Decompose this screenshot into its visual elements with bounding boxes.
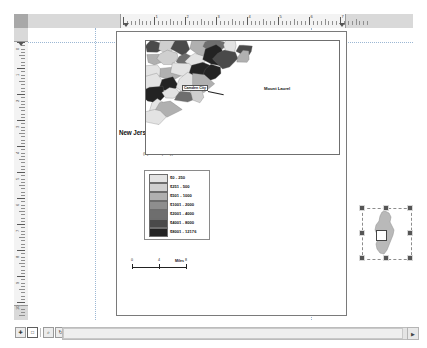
ruler-h-label: 1 (156, 15, 158, 19)
choropleth-map[interactable] (146, 41, 339, 154)
ruler-v-label: 5 (16, 178, 20, 180)
ruler-h-minor-tick (146, 21, 147, 25)
map-callout-camden-city[interactable]: Camden City (182, 85, 208, 91)
legend-label: $2001 - 4000 (170, 211, 194, 216)
legend-item[interactable]: $8001 - 12176 (149, 228, 207, 235)
ruler-v-minor-tick (21, 123, 25, 124)
ruler-v-minor-tick (21, 234, 25, 235)
horizontal-scrollbar[interactable] (62, 327, 409, 340)
ruler-h-minor-tick (274, 21, 275, 25)
ruler-h-label: 3 (218, 15, 220, 19)
ruler-v-minor-tick (19, 263, 25, 264)
ruler-v-label: 7 (16, 230, 20, 232)
selection-handle[interactable] (407, 205, 413, 211)
ruler-v-minor-tick (21, 58, 25, 59)
legend-item[interactable]: $1001 - 2000 (149, 201, 207, 208)
ruler-h-minor-tick (224, 21, 225, 25)
ruler-h-minor-tick (228, 21, 229, 25)
ruler-v-minor-tick (21, 101, 25, 102)
ruler-h-minor-tick (356, 19, 357, 25)
ruler-v-minor-tick (21, 156, 25, 157)
selection-handle[interactable] (383, 205, 389, 211)
ruler-v-minor-tick (21, 75, 25, 76)
scale-bar-tick-label: 0 (131, 258, 133, 262)
ruler-v-minor-tick (21, 162, 25, 163)
legend-item[interactable]: $251 - 500 (149, 183, 207, 190)
select-tool[interactable]: □ (27, 327, 38, 338)
ruler-h-minor-tick (321, 21, 322, 25)
ruler-v-minor-tick (21, 88, 25, 89)
ruler-h-minor-tick (201, 19, 202, 25)
vertical-ruler[interactable]: 012345678910 (14, 28, 29, 320)
ruler-h-minor-tick (255, 21, 256, 25)
horizontal-scrollbar-thumb[interactable] (63, 328, 403, 339)
horizontal-ruler[interactable]: 1234567 (28, 14, 413, 29)
scroll-right-button[interactable]: ▶ (407, 327, 419, 340)
ruler-v-minor-tick (21, 253, 25, 254)
scale-bar[interactable]: Miles 048 (129, 258, 201, 274)
ruler-h-minor-tick (282, 21, 283, 25)
ruler-v-minor-tick (21, 266, 25, 267)
map-label-mount-laurel[interactable]: Mount Laurel (264, 86, 290, 91)
scale-bar-unit: Miles (175, 259, 184, 263)
ruler-v-minor-tick (21, 143, 25, 144)
ruler-guide-marker-right[interactable] (339, 23, 345, 27)
ruler-v-minor-tick (21, 273, 25, 274)
ruler-v-minor-tick (21, 153, 25, 154)
ruler-h-minor-tick (313, 21, 314, 25)
ruler-v-minor-tick (21, 169, 25, 170)
ruler-h-minor-tick (162, 21, 163, 25)
ruler-v-minor-tick (21, 244, 25, 245)
selection-handle[interactable] (359, 255, 365, 261)
ruler-h-minor-tick (135, 21, 136, 25)
layout-canvas[interactable]: New Jersey Per Capita Tax , 2001 (by mun… (28, 28, 413, 320)
selection-handle[interactable] (407, 230, 413, 236)
legend-label: $251 - 500 (170, 184, 190, 189)
selection-handle[interactable] (383, 255, 389, 261)
ruler-v-major-tick (17, 120, 25, 121)
ruler-v-minor-tick (21, 179, 25, 180)
ruler-v-minor-tick (21, 114, 25, 115)
pan-tool[interactable]: ✚ (15, 327, 26, 338)
scale-bar-tick (186, 264, 187, 269)
map-data-frame[interactable]: Camden City Mount Laurel (145, 40, 340, 155)
inset-overview-graphic[interactable] (358, 204, 413, 262)
ruler-h-minor-tick (208, 21, 209, 25)
ruler-v-label: 9 (16, 282, 20, 284)
ruler-v-minor-tick (21, 292, 25, 293)
ruler-h-minor-tick (235, 21, 236, 25)
ruler-v-minor-tick (19, 237, 25, 238)
ruler-v-major-tick (17, 198, 25, 199)
ruler-v-label: 10 (16, 306, 20, 310)
legend-item[interactable]: $0 - 250 (149, 174, 207, 181)
selection-handle[interactable] (407, 255, 413, 261)
legend-swatch (149, 210, 168, 219)
ruler-v-minor-tick (21, 279, 25, 280)
legend-item[interactable]: $2001 - 4000 (149, 210, 207, 217)
ruler-v-minor-tick (21, 175, 25, 176)
legend-item[interactable]: $4001 - 8000 (149, 219, 207, 226)
selection-handle[interactable] (359, 205, 365, 211)
ruler-h-minor-tick (150, 21, 151, 25)
ruler-v-minor-tick (21, 78, 25, 79)
selection-handle[interactable] (359, 230, 365, 236)
ruler-v-minor-tick (21, 218, 25, 219)
ruler-v-minor-tick (21, 166, 25, 167)
scale-bar-tick-label: 4 (158, 258, 160, 262)
ruler-corner[interactable] (14, 14, 29, 29)
ruler-v-major-tick (17, 68, 25, 69)
ruler-v-major-tick (17, 146, 25, 147)
legend-item[interactable]: $501 - 1000 (149, 192, 207, 199)
ruler-v-minor-tick (21, 91, 25, 92)
ruler-v-minor-tick (21, 227, 25, 228)
ruler-guide-marker-top[interactable] (18, 42, 24, 46)
zoom-tool[interactable]: ⌕ (43, 327, 54, 338)
ruler-v-minor-tick (21, 149, 25, 150)
map-legend[interactable]: $0 - 250$251 - 500$501 - 1000$1001 - 200… (144, 170, 210, 240)
layout-page[interactable]: New Jersey Per Capita Tax , 2001 (by mun… (116, 31, 347, 316)
ruler-v-minor-tick (21, 283, 25, 284)
ruler-h-minor-tick (204, 21, 205, 25)
ruler-v-minor-tick (19, 133, 25, 134)
ruler-v-minor-tick (21, 62, 25, 63)
ruler-guide-marker-left[interactable] (123, 23, 129, 27)
